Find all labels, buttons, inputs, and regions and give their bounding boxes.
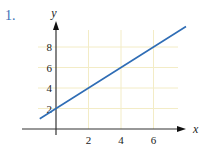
x-axis-arrow-icon	[177, 126, 186, 132]
x-tick-label: 6	[151, 134, 157, 146]
y-axis-label: y	[50, 6, 57, 20]
series-line	[40, 27, 186, 119]
data-series	[40, 27, 186, 119]
y-tick-label: 4	[47, 82, 53, 94]
x-tick-label: 4	[118, 134, 124, 146]
tick-labels: 2462468xy	[47, 6, 200, 146]
line-chart: 2462468xy	[0, 0, 202, 148]
y-tick-label: 8	[47, 41, 53, 53]
y-axis-arrow-icon	[53, 21, 59, 30]
x-tick-label: 2	[86, 134, 92, 146]
x-axis-label: x	[192, 122, 199, 136]
y-tick-label: 6	[47, 62, 53, 74]
